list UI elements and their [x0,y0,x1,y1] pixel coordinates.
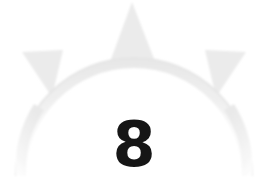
page-canvas: 8 [0,0,268,195]
page-number: 8 [0,112,268,178]
spike-top-shape [110,2,156,64]
